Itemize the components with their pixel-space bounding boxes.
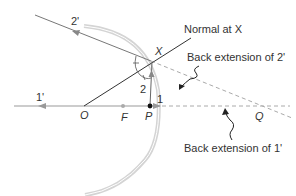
pointer-back-ext-1-arrow-icon [222, 108, 229, 115]
label-ray-1-prime: 1' [36, 92, 44, 103]
label-back-extension-1: Back extension of 1' [184, 143, 282, 154]
label-point-f: F [121, 112, 128, 123]
diagram-canvas [0, 0, 296, 196]
label-normal-at-x: Normal at X [184, 24, 242, 35]
convex-mirror-ray-diagram: 2' 1' 2 1 X O F P Q Normal at X Back ext… [0, 0, 296, 196]
back-extension-2-line [151, 61, 292, 118]
angle-arc-incident [135, 56, 140, 75]
label-ray-2: 2 [140, 84, 146, 95]
label-back-extension-2: Back extension of 2' [187, 52, 285, 63]
pointer-back-ext-1 [226, 112, 234, 140]
label-ray-2-prime: 2' [71, 16, 79, 27]
label-ray-1: 1 [157, 94, 163, 105]
label-point-x: X [155, 46, 162, 57]
label-point-q: Q [255, 111, 264, 122]
ray-2-prime [35, 15, 151, 61]
point-f [121, 104, 125, 108]
pointer-back-ext-2-arrow-icon [179, 84, 185, 90]
ray-1-prime-arrow-icon [38, 103, 46, 109]
label-point-p: P [145, 111, 152, 122]
pointer-back-ext-2 [182, 66, 199, 86]
point-p [148, 104, 153, 109]
ray-2-prime-arrow-icon [72, 30, 80, 36]
label-point-o: O [80, 110, 89, 121]
